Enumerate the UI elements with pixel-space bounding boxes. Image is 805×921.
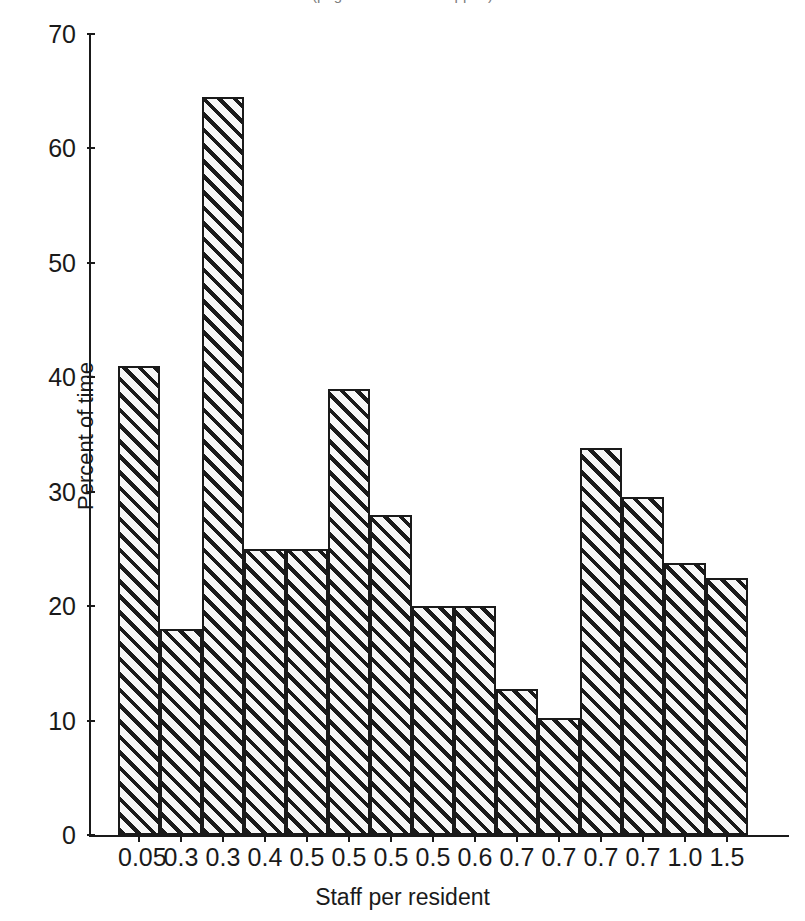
bar-slot [118,34,160,835]
y-axis-tick-label: 0 [62,823,76,848]
cropped-title-text: (page header text cropped) [0,0,805,3]
bar [454,606,496,835]
x-axis-tick [348,835,350,842]
y-axis-tick-label: 50 [48,250,76,275]
x-axis-tick [684,835,686,842]
x-axis-tick [222,835,224,842]
x-axis-tick-label: 0.7 [580,845,622,870]
x-axis-tick-label: 0.05 [118,845,160,870]
bar [328,389,370,835]
bar [496,689,538,835]
x-axis-tick [516,835,518,842]
bar-slot [160,34,202,835]
y-axis-tick [87,834,95,836]
x-axis-tick-label: 0.7 [496,845,538,870]
x-axis-tick [558,835,560,842]
bar [538,718,580,835]
x-axis-tick-label: 0.3 [160,845,202,870]
y-axis-tick-label: 30 [48,479,76,504]
cropped-title-sliver: (page header text cropped) [0,0,805,8]
x-axis-tick-label: 0.7 [622,845,664,870]
x-axis-tick [390,835,392,842]
bar [412,606,454,835]
bar-slot [286,34,328,835]
x-axis-tick-label: 0.5 [286,845,328,870]
x-axis-tick [474,835,476,842]
bar [706,578,748,835]
bar [160,629,202,835]
bar [286,549,328,835]
bar-slot [202,34,244,835]
x-axis-tick-label: 0.7 [538,845,580,870]
y-axis-tick [87,720,95,722]
x-axis-tick [180,835,182,842]
y-axis-title: Percent of time [73,362,99,510]
bar-slot [370,34,412,835]
bar-slot [706,34,748,835]
x-axis-tick-label: 1.0 [664,845,706,870]
bar-slot [580,34,622,835]
x-axis-tick-label: 0.4 [244,845,286,870]
x-axis-tick-label: 1.5 [706,845,748,870]
x-axis-tick [264,835,266,842]
chart-figure: (page header text cropped) Percent of ti… [0,0,805,921]
y-axis-tick [87,33,95,35]
x-axis-tick [306,835,308,842]
y-axis-tick [87,376,95,378]
x-axis-tick-label: 0.5 [412,845,454,870]
bar-slot [412,34,454,835]
bar-slot [244,34,286,835]
bar [118,366,160,835]
x-axis-tick [600,835,602,842]
y-axis-tick-label: 20 [48,594,76,619]
y-axis-tick [87,491,95,493]
y-axis-tick-label: 70 [48,22,76,47]
y-axis-tick [87,147,95,149]
bar [580,448,622,835]
bar-slot [454,34,496,835]
y-axis-tick [87,262,95,264]
x-axis-tick-label: 0.6 [454,845,496,870]
bar [370,515,412,835]
bar [244,549,286,835]
bar-slot [664,34,706,835]
bar [622,497,664,835]
x-axis-tick-label: 0.5 [370,845,412,870]
y-axis-tick-label: 60 [48,136,76,161]
bar-slot [328,34,370,835]
plot-area: Percent of time 010203040506070 0.050.30… [89,34,805,837]
x-axis-tick-label: 0.3 [202,845,244,870]
y-axis-tick [87,605,95,607]
bar-slot [538,34,580,835]
y-axis-tick-label: 10 [48,708,76,733]
bar-slot [496,34,538,835]
x-axis-tick [726,835,728,842]
bar-group: 0.050.30.30.40.50.50.50.50.60.70.70.70.7… [118,34,748,835]
x-axis-title: Staff per resident [0,884,805,911]
y-axis-tick-label: 40 [48,365,76,390]
x-axis-tick [432,835,434,842]
x-axis-tick [642,835,644,842]
x-axis-tick [138,835,140,842]
x-axis-tick-label: 0.5 [328,845,370,870]
bar-slot [622,34,664,835]
bar [664,563,706,835]
bar [202,97,244,835]
